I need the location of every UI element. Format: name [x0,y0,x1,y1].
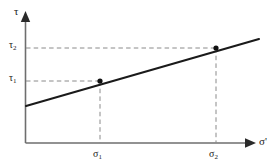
y-tick-tau1-subscript: 1 [13,77,17,85]
x-tick-sigma1-subscript: 1 [98,153,102,161]
y-tick-label-tau2: τ2 [9,40,17,50]
x-tick-label-sigma1: σ1 [93,149,102,159]
y-tick-label-tau1: τ1 [9,73,17,83]
x-tick-sigma2-subscript: 2 [214,153,218,161]
plot-area [0,0,275,168]
data-point-2 [213,45,218,50]
x-axis-arrowhead [245,138,256,148]
failure-envelope-line [26,39,259,106]
y-axis-label: τ [14,6,18,17]
data-point-1 [97,78,102,83]
y-tick-tau2-subscript: 2 [13,44,17,52]
y-axis-arrowhead [21,11,30,22]
figure-canvas: τ σ' τ2 τ1 σ1 σ2 [0,0,275,168]
x-axis-label: σ' [259,136,267,147]
x-tick-label-sigma2: σ2 [209,149,218,159]
